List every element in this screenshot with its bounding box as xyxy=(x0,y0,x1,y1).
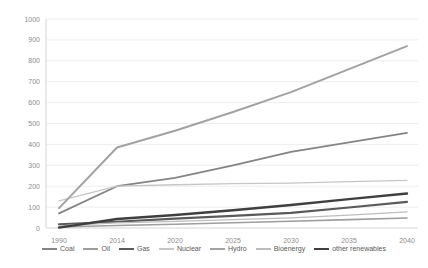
line-chart-figure: 01002003004005006007008009001000 1990201… xyxy=(0,0,428,268)
legend-label: other renewables xyxy=(332,245,386,253)
legend-label: Nuclear xyxy=(177,245,201,253)
legend-marker-coal xyxy=(42,248,57,250)
x-axis-labels: 1990201420202025203020352040 xyxy=(51,237,415,244)
legend-label: Oil xyxy=(101,245,110,253)
y-axis-labels: 01002003004005006007008009001000 xyxy=(24,16,40,232)
legend-marker-oil xyxy=(83,248,98,250)
legend-item-coal: Coal xyxy=(42,245,74,253)
legend-label: Hydro xyxy=(228,245,247,253)
legend-label: Bioenergy xyxy=(274,245,306,253)
x-axis-label: 2030 xyxy=(283,237,299,244)
y-axis-label: 0 xyxy=(36,225,40,232)
x-axis-label: 2035 xyxy=(341,237,357,244)
x-axis-label: 2025 xyxy=(225,237,241,244)
legend-item-oil: Oil xyxy=(83,245,110,253)
series-lines xyxy=(59,46,407,227)
y-axis-label: 900 xyxy=(28,36,40,43)
legend-item-bioenergy: Bioenergy xyxy=(256,245,306,253)
legend-item-nuclear: Nuclear xyxy=(159,245,201,253)
legend-item-other-renewables: other renewables xyxy=(314,245,386,253)
y-axis-label: 1000 xyxy=(24,16,40,23)
chart-legend: CoalOilGasNuclearHydroBioenergyother ren… xyxy=(0,245,428,253)
y-axis-label: 500 xyxy=(28,120,40,127)
y-axis-label: 100 xyxy=(28,204,40,211)
y-axis-label: 400 xyxy=(28,141,40,148)
legend-marker-nuclear xyxy=(159,248,174,249)
x-axis-label: 1990 xyxy=(51,237,67,244)
legend-label: Coal xyxy=(60,245,74,253)
y-axis-label: 700 xyxy=(28,78,40,85)
y-axis-label: 200 xyxy=(28,183,40,190)
legend-marker-other-renewables xyxy=(314,248,329,250)
legend-item-hydro: Hydro xyxy=(210,245,247,253)
legend-label: Gas xyxy=(137,245,150,253)
x-axis-label: 2040 xyxy=(399,237,415,244)
line-chart: 01002003004005006007008009001000 1990201… xyxy=(0,0,428,246)
x-axis-label: 2020 xyxy=(167,237,183,244)
legend-marker-hydro xyxy=(210,248,225,250)
y-axis-label: 300 xyxy=(28,162,40,169)
legend-item-gas: Gas xyxy=(119,245,150,253)
legend-marker-gas xyxy=(119,248,134,250)
y-axis-label: 800 xyxy=(28,57,40,64)
legend-marker-bioenergy xyxy=(256,248,271,249)
y-axis-label: 600 xyxy=(28,99,40,106)
series-line-coal xyxy=(59,133,407,213)
x-axis-label: 2014 xyxy=(109,237,125,244)
